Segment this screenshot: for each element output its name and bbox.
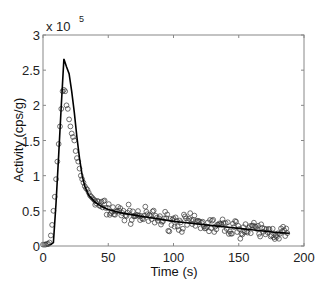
- plot-area: [41, 59, 290, 247]
- data-point: [192, 213, 197, 218]
- data-point: [122, 218, 127, 223]
- axes-box: [43, 35, 304, 246]
- x-tick-label: 0: [39, 250, 46, 265]
- y-tick-label: 1: [33, 169, 40, 184]
- data-point: [68, 124, 73, 129]
- y-tick-label: 0.5: [22, 204, 40, 219]
- data-point: [143, 204, 148, 209]
- x-tick-label: 100: [163, 250, 185, 265]
- y-multiplier-label: x 10: [46, 19, 71, 34]
- data-point: [67, 117, 72, 122]
- data-point: [130, 209, 135, 214]
- y-multiplier-exponent: 5: [79, 14, 84, 24]
- data-point: [211, 217, 216, 222]
- y-tick-label: 3: [33, 28, 40, 43]
- y-axis-label: Activity (cps/g): [11, 98, 26, 183]
- x-axis-label: Time (s): [150, 264, 197, 279]
- data-point: [126, 202, 131, 207]
- x-tick-label: 150: [228, 250, 250, 265]
- data-point: [111, 205, 116, 210]
- data-point: [48, 233, 53, 238]
- data-point: [151, 208, 156, 213]
- data-point: [73, 149, 78, 154]
- y-tick-label: 2.5: [22, 63, 40, 78]
- data-point: [180, 226, 185, 231]
- activity-time-chart: 05010015020000.511.522.53 x 10 5 Time (s…: [0, 0, 323, 284]
- y-tick-label: 2: [33, 98, 40, 113]
- data-point: [248, 231, 253, 236]
- y-tick-label: 0: [33, 239, 40, 254]
- x-tick-label: 50: [101, 250, 115, 265]
- x-tick-label: 200: [293, 250, 315, 265]
